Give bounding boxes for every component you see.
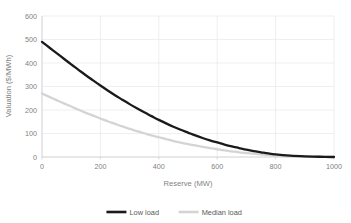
x-axis-title: Reserve (MW) xyxy=(164,179,213,188)
chart-container: 0100200300400500600 02004006008001000 Va… xyxy=(0,0,351,223)
x-axis-tick-label: 200 xyxy=(94,162,106,171)
y-axis-tick-label: 0 xyxy=(33,153,37,162)
y-axis-tick-label: 200 xyxy=(25,106,37,115)
x-axis-tick-label: 400 xyxy=(153,162,165,171)
y-axis-tick-label: 600 xyxy=(25,12,37,21)
legend-label-median-load: Median load xyxy=(202,208,242,217)
x-axis-tick-label: 800 xyxy=(270,162,282,171)
x-axis-tick-label: 600 xyxy=(211,162,223,171)
chart-background xyxy=(0,0,351,223)
y-axis-tick-label: 300 xyxy=(25,82,37,91)
y-axis-tick-label: 500 xyxy=(25,35,37,44)
y-axis-title: Valuation ($/MWh) xyxy=(4,54,13,117)
legend-label-low-load: Low load xyxy=(129,208,159,217)
x-axis-tick-label: 1000 xyxy=(326,162,342,171)
y-axis-tick-label: 100 xyxy=(25,129,37,138)
x-axis-tick-label: 0 xyxy=(40,162,44,171)
y-axis-tick-label: 400 xyxy=(25,59,37,68)
line-chart: 0100200300400500600 02004006008001000 Va… xyxy=(0,0,351,223)
